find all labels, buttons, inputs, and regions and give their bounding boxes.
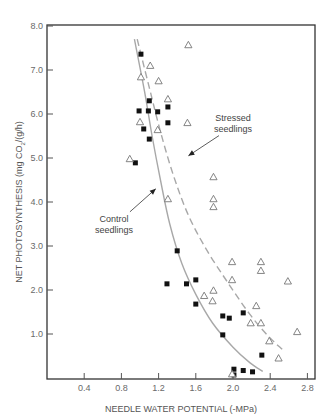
stressed-point-marker — [257, 319, 264, 325]
control-point-marker — [220, 332, 225, 337]
control-point-marker — [137, 108, 142, 113]
stressed-point-marker — [228, 276, 235, 282]
stressed-point-marker — [210, 173, 217, 179]
stressed-point-marker — [210, 287, 217, 293]
control-label-line: seedlings — [95, 225, 134, 235]
control-point-marker — [133, 160, 138, 165]
control-point-marker — [241, 310, 246, 315]
x-tick-label: 0.4 — [78, 383, 91, 393]
data-points — [126, 41, 301, 377]
y-axis-title: NET PHOTOSYNTHESIS (mg CO2/(g/h) — [14, 121, 26, 283]
stressed-point-marker — [257, 267, 264, 273]
x-tick-label: 2.4 — [264, 383, 277, 393]
control-point-marker — [193, 277, 198, 282]
stressed-point-marker — [275, 355, 282, 361]
stressed-point-marker — [164, 95, 171, 101]
stressed-point-marker — [137, 73, 144, 79]
control-fit-curve — [134, 39, 262, 371]
x-tick-label: 0.8 — [115, 383, 128, 393]
control-point-marker — [164, 281, 169, 286]
stressed-label-line: seedlings — [214, 124, 253, 134]
y-tick-label: 5.0 — [30, 153, 43, 163]
x-tick-label: 1.2 — [152, 383, 165, 393]
stressed-point-marker — [257, 258, 264, 264]
control-point-marker — [146, 108, 151, 113]
control-point-marker — [175, 248, 180, 253]
arrowhead-icon — [188, 150, 194, 155]
control-point-marker — [184, 281, 189, 286]
control-point-marker — [165, 104, 170, 109]
stressed-point-marker — [201, 292, 208, 298]
x-axis-title: NEEDLE WATER POTENTIAL (-MPa) — [105, 404, 257, 414]
control-point-marker — [165, 120, 170, 125]
stressed-point-marker — [247, 319, 254, 325]
stressed-point-marker — [147, 62, 154, 68]
control-point-marker — [147, 137, 152, 142]
stressed-point-marker — [253, 302, 260, 308]
y-tick-label: 2.0 — [30, 285, 43, 295]
control-point-marker — [155, 109, 160, 114]
control-point-marker — [259, 353, 264, 358]
stressed-point-marker — [126, 155, 133, 161]
y-tick-label: 4.0 — [30, 197, 43, 207]
stressed-point-marker — [155, 77, 162, 83]
plot-border — [47, 25, 315, 379]
control-point-marker — [193, 302, 198, 307]
stressed-point-marker — [294, 328, 301, 334]
x-tick-label: 1.6 — [190, 383, 203, 393]
plot-frame — [47, 25, 315, 379]
x-tick-label: 2.0 — [227, 383, 240, 393]
y-axis: 1.02.03.04.05.06.07.08.0 — [30, 21, 53, 339]
control-point-marker — [147, 98, 152, 103]
stressed-point-marker — [284, 278, 291, 284]
control-label: Controlseedlings — [95, 214, 134, 235]
control-point-marker — [141, 126, 146, 131]
control-label-line: Control — [99, 214, 128, 224]
stressed-point-marker — [210, 203, 217, 209]
y-tick-label: 7.0 — [30, 65, 43, 75]
y-title-main: NET PHOTOSYNTHESIS (mg CO — [14, 146, 24, 283]
stressed-point-marker — [185, 41, 192, 47]
y-tick-label: 8.0 — [30, 21, 43, 31]
stressed-point-marker — [136, 118, 143, 124]
stressed-point-marker — [228, 258, 235, 264]
stressed-point-marker — [164, 195, 171, 201]
control-point-marker — [227, 316, 232, 321]
control-point-marker — [241, 368, 246, 373]
stressed-point-marker — [184, 119, 191, 125]
annotations: StressedseedlingsControlseedlings — [95, 113, 253, 235]
x-axis: 0.40.81.21.62.02.42.8 — [78, 373, 314, 393]
stressed-label: Stressedseedlings — [214, 113, 253, 134]
y-tick-label: 3.0 — [30, 241, 43, 251]
stressed-point-marker — [209, 297, 216, 303]
scatter-chart: 1.02.03.04.05.06.07.08.0 0.40.81.21.62.0… — [0, 0, 331, 420]
control-point-marker — [220, 313, 225, 318]
y-title-rest: /(g/h) — [14, 121, 24, 142]
x-tick-label: 2.8 — [301, 383, 314, 393]
control-point-marker — [138, 52, 143, 57]
stressed-point-marker — [210, 195, 217, 201]
y-tick-label: 1.0 — [30, 329, 43, 339]
y-tick-label: 6.0 — [30, 109, 43, 119]
stressed-label-line: Stressed — [215, 113, 251, 123]
control-point-marker — [250, 369, 255, 374]
